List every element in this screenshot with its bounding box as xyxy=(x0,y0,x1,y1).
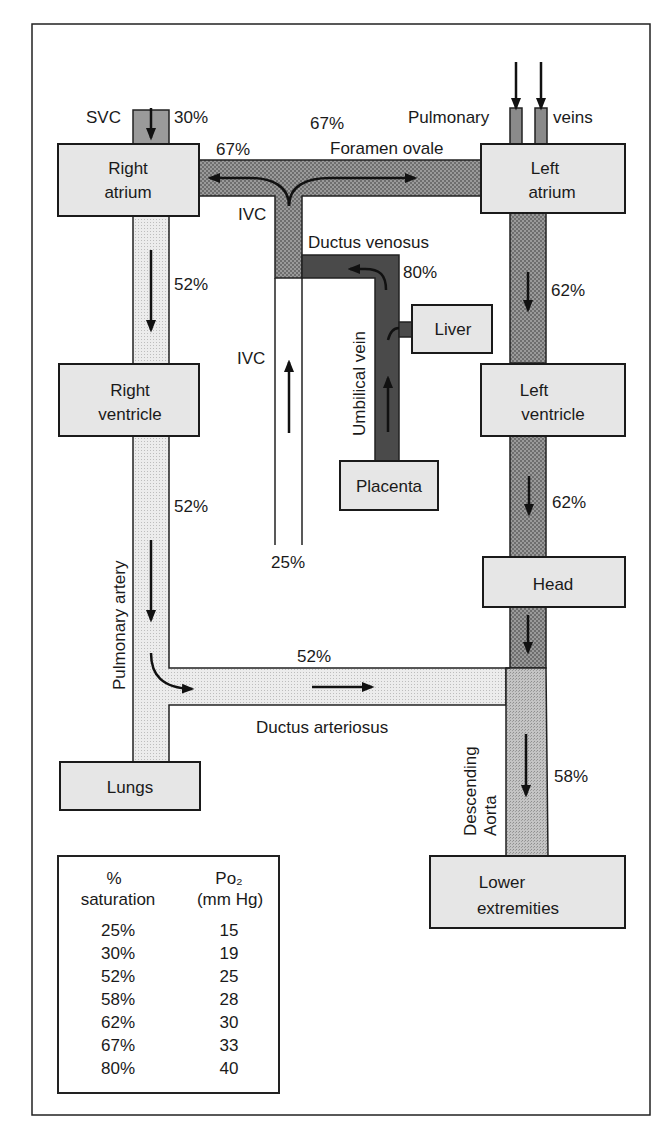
liver-box: Liver xyxy=(412,305,492,353)
umbilical-vein-label: Umbilical vein xyxy=(350,331,369,436)
right-ventricle-box: Right ventricle xyxy=(59,364,199,436)
ductus-arteriosus-label: Ductus arteriosus xyxy=(256,718,388,737)
legend-col1-header-2: saturation xyxy=(81,890,156,909)
pulmonary-artery-vessel xyxy=(133,216,506,762)
svg-text:Head: Head xyxy=(533,575,574,594)
legend-row-sat: 25% xyxy=(101,921,135,940)
head-box: Head xyxy=(483,557,625,607)
pulmonary-vein-2 xyxy=(535,108,547,144)
svg-text:extremities: extremities xyxy=(477,899,559,918)
foramen-top-saturation: 67% xyxy=(310,114,344,133)
legend-row-sat: 52% xyxy=(101,967,135,986)
ivc-lower-label: IVC xyxy=(237,349,265,368)
descending-aorta-label-1: Descending xyxy=(461,746,480,836)
pulmonary-veins-label-1: Pulmonary xyxy=(408,108,490,127)
la-lv-saturation: 62% xyxy=(551,281,585,300)
svg-text:Right: Right xyxy=(110,381,150,400)
liver-connector xyxy=(399,322,413,337)
descending-aorta-saturation: 58% xyxy=(554,767,588,786)
legend-col2-header-2: (mm Hg) xyxy=(197,890,263,909)
pa-saturation: 52% xyxy=(174,497,208,516)
svg-text:atrium: atrium xyxy=(104,183,151,202)
svg-text:atrium: atrium xyxy=(528,183,575,202)
pulmonary-artery-label: Pulmonary artery xyxy=(110,560,129,690)
legend-table: % saturation Po₂ (mm Hg) 25% 15 30% 19 5… xyxy=(58,856,279,1093)
legend-row-po2: 19 xyxy=(220,944,239,963)
svg-text:ventricle: ventricle xyxy=(98,405,161,424)
ivc-lower-saturation: 25% xyxy=(271,553,305,572)
svg-text:Lungs: Lungs xyxy=(107,778,153,797)
legend-row-po2: 40 xyxy=(220,1059,239,1078)
svc-label: SVC xyxy=(86,108,121,127)
lower-extremities-box: Lower extremities xyxy=(430,856,625,928)
ra-rv-saturation: 52% xyxy=(174,275,208,294)
legend-row-po2: 30 xyxy=(220,1013,239,1032)
legend-row-sat: 30% xyxy=(101,944,135,963)
lv-head-saturation: 62% xyxy=(552,493,586,512)
svg-text:Lower: Lower xyxy=(479,873,526,892)
placenta-box: Placenta xyxy=(340,461,438,510)
ivc-upper-label: IVC xyxy=(238,205,266,224)
legend-col2-header-1: Po₂ xyxy=(215,869,242,888)
fetal-circulation-diagram: Right atrium Left atrium Right ventricle… xyxy=(0,0,668,1126)
legend-row-po2: 33 xyxy=(220,1036,239,1055)
svg-text:Liver: Liver xyxy=(435,320,472,339)
foramen-right-saturation: 67% xyxy=(216,140,250,159)
pulmonary-vein-1 xyxy=(510,108,522,144)
legend-col1-header-1: % xyxy=(106,869,121,888)
svg-text:Right: Right xyxy=(108,159,148,178)
legend-row-po2: 25 xyxy=(220,967,239,986)
legend-row-po2: 15 xyxy=(220,921,239,940)
left-ventricle-box: Left ventricle xyxy=(481,364,625,436)
ductus-arteriosus-saturation: 52% xyxy=(297,647,331,666)
legend-row-po2: 28 xyxy=(220,990,239,1009)
foramen-ovale-label: Foramen ovale xyxy=(330,139,443,158)
svg-text:Left: Left xyxy=(531,159,560,178)
legend-row-sat: 67% xyxy=(101,1036,135,1055)
svg-text:ventricle: ventricle xyxy=(521,405,584,424)
svg-text:Left: Left xyxy=(520,381,549,400)
svg-text:Placenta: Placenta xyxy=(356,477,423,496)
legend-row-sat: 62% xyxy=(101,1013,135,1032)
right-atrium-box: Right atrium xyxy=(58,144,199,216)
svc-saturation: 30% xyxy=(174,108,208,127)
legend-row-sat: 80% xyxy=(101,1059,135,1078)
left-atrium-box: Left atrium xyxy=(481,144,625,213)
legend-row-sat: 58% xyxy=(101,990,135,1009)
lungs-box: Lungs xyxy=(60,762,200,810)
ductus-venosus-label: Ductus venosus xyxy=(308,233,429,252)
ductus-venosus-saturation: 80% xyxy=(403,263,437,282)
descending-aorta-label-2: Aorta xyxy=(481,795,500,836)
pulmonary-veins-label-2: veins xyxy=(553,108,593,127)
